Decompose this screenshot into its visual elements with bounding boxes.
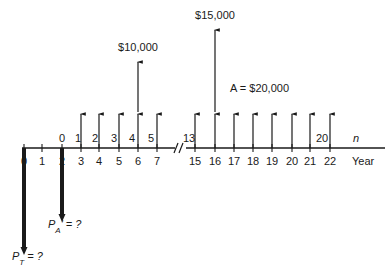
year-label-1: 1 xyxy=(39,155,45,167)
year-labels: 012345671516171819202122 xyxy=(21,155,336,167)
n-label-2: 2 xyxy=(92,132,98,144)
n-label-1: 1 xyxy=(75,132,81,144)
year-label-16: 16 xyxy=(209,155,221,167)
year-label-20: 20 xyxy=(286,155,298,167)
n-label-3: 3 xyxy=(111,132,117,144)
cash-flow-diagram: 012345671516171819202122 Year 0123451320… xyxy=(0,0,388,272)
year-label-21: 21 xyxy=(304,155,316,167)
n-label-13: 13 xyxy=(183,132,195,144)
year-label-15: 15 xyxy=(189,155,201,167)
n-label-20: 20 xyxy=(316,132,328,144)
present-value-label: PT = ? xyxy=(12,250,44,267)
year-label-5: 5 xyxy=(116,155,122,167)
cashflow-amount-label: $15,000 xyxy=(195,9,235,21)
year-label-3: 3 xyxy=(78,155,84,167)
present-value-label: PA' = ? xyxy=(48,218,82,235)
large-cashflow-arrows: $10,000$15,000 xyxy=(118,9,235,112)
year-label-4: 4 xyxy=(96,155,102,167)
n-axis-label: n xyxy=(353,132,359,144)
year-label-18: 18 xyxy=(247,155,259,167)
year-label-7: 7 xyxy=(154,155,160,167)
year-label-22: 22 xyxy=(324,155,336,167)
present-value-arrows: PT = ?PA' = ? xyxy=(12,148,82,267)
cashflow-amount-label: $10,000 xyxy=(118,41,158,53)
n-label-0: 0 xyxy=(59,132,65,144)
annuity-label: A = $20,000 xyxy=(230,82,289,94)
year-axis-label: Year xyxy=(352,155,375,167)
year-label-6: 6 xyxy=(135,155,141,167)
axis-break-icon xyxy=(174,143,183,153)
annuity-arrows xyxy=(81,114,330,148)
year-label-19: 19 xyxy=(266,155,278,167)
year-label-17: 17 xyxy=(228,155,240,167)
n-label-5: 5 xyxy=(148,132,154,144)
n-label-4: 4 xyxy=(129,132,135,144)
